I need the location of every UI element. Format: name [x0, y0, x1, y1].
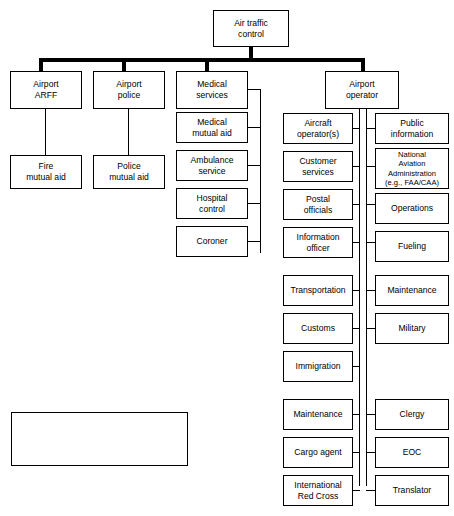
connector-arff-to-fire: [45, 109, 46, 156]
node-fire-mutual-aid: Fire mutual aid: [10, 155, 82, 189]
connector-police-to-police-mutual-aid: [128, 109, 129, 156]
connector-medical-stub-4: [248, 241, 261, 242]
connector-right-stub-0: [366, 128, 375, 129]
connector-right-stub-7: [366, 452, 375, 453]
node-maintenance-left: Maintenance: [283, 399, 353, 430]
connector-medical-stub-0: [248, 89, 261, 90]
node-medical-services: Medical services: [176, 71, 248, 109]
connector-right-stub-4: [366, 290, 375, 291]
connector-right-stub-1: [366, 166, 375, 167]
node-airport-arff: Airport ARFF: [10, 71, 82, 109]
node-airport-police: Airport police: [93, 71, 165, 109]
node-transportation: Transportation: [283, 275, 353, 306]
connector-left-stub-6: [353, 366, 360, 367]
node-cargo-agent: Cargo agent: [283, 437, 353, 468]
node-public-information: Public information: [375, 113, 449, 144]
node-ambulance-service: Ambulance service: [176, 150, 248, 181]
connector-drop-medical: [205, 58, 209, 72]
connector-right-stub-5: [366, 328, 375, 329]
connector-right-stub-2: [366, 204, 375, 205]
connector-left-stub-4: [353, 290, 360, 291]
node-immigration: Immigration: [283, 351, 353, 382]
connector-medical-bus: [260, 89, 261, 253]
node-air-traffic-control: Air traffic control: [213, 10, 289, 47]
node-operations: Operations: [375, 193, 449, 224]
connector-left-stub-5: [353, 328, 360, 329]
node-international-red-cross: International Red Cross: [283, 475, 353, 506]
connector-left-stub-0: [353, 128, 360, 129]
node-medical-mutual-aid: Medical mutual aid: [176, 112, 248, 143]
connector-right-stub-8: [366, 490, 375, 491]
connector-left-stub-2: [353, 204, 360, 205]
connector-left-stub-8: [353, 452, 360, 453]
node-police-mutual-aid: Police mutual aid: [93, 155, 165, 189]
connector-left-stub-1: [353, 166, 360, 167]
connector-right-stub-6: [366, 414, 375, 415]
connector-drop-police: [122, 58, 126, 72]
node-airport-operator: Airport operator: [325, 71, 399, 109]
node-hospital-control: Hospital control: [176, 188, 248, 219]
node-postal-officials: Postal officials: [283, 189, 353, 220]
node-translator: Translator: [375, 475, 449, 506]
connector-left-stub-7: [353, 414, 360, 415]
node-national-aviation-administration: National Aviation Administration (e.g., …: [375, 148, 449, 189]
node-customs: Customs: [283, 313, 353, 344]
node-information-officer: Information officer: [283, 227, 353, 258]
org-chart-diagram: Air traffic control Airport ARFF Airport…: [0, 0, 454, 516]
connector-main-bus: [39, 58, 365, 62]
connector-left-stub-9: [353, 490, 360, 491]
node-clergy: Clergy: [375, 399, 449, 430]
connector-left-stub-3: [353, 242, 360, 243]
connector-medical-stub-1: [248, 127, 261, 128]
legend-box: [11, 412, 188, 466]
connector-medical-stub-3: [248, 203, 261, 204]
connector-drop-operator: [361, 58, 365, 72]
node-customer-services: Customer services: [283, 151, 353, 182]
connector-drop-arff: [39, 58, 43, 72]
connector-medical-stub-2: [248, 165, 261, 166]
node-eoc: EOC: [375, 437, 449, 468]
node-military: Military: [375, 313, 449, 344]
node-maintenance-right: Maintenance: [375, 275, 449, 306]
connector-right-stub-3: [366, 242, 375, 243]
node-coroner: Coroner: [176, 226, 248, 257]
node-aircraft-operators: Aircraft operator(s): [283, 113, 353, 144]
node-fueling: Fueling: [375, 231, 449, 262]
